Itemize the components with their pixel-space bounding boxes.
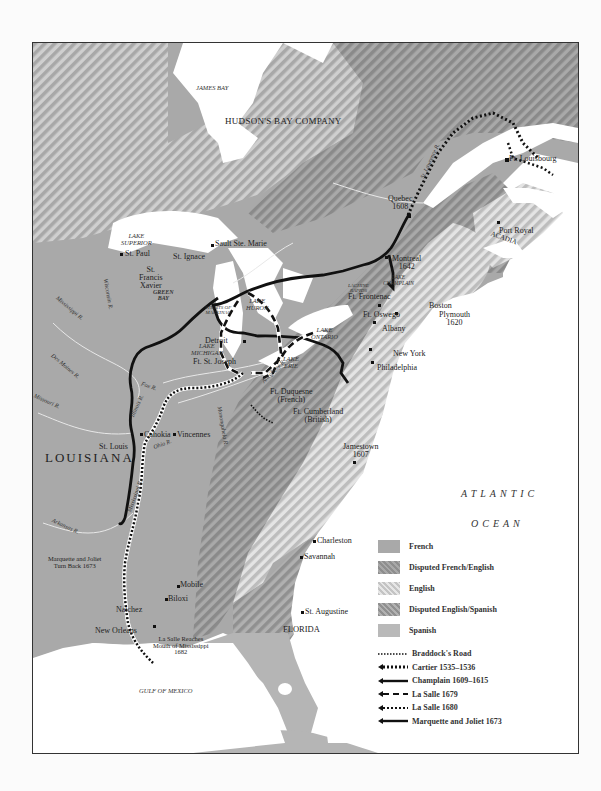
label-green-bay: GREENBAY [153,289,174,301]
label-charleston: Charleston [317,537,352,545]
label-new-orleans: New Orleans [95,627,137,635]
label-louisiana: LOUISIANA [45,451,134,464]
label-cahokia: Cahokia [144,431,171,439]
label-lake-huron: LAKEHURON [246,298,268,311]
legend-item-spanish: Spanish [378,620,548,641]
legend-route-la-salle-1680: La Salle 1680 [378,701,548,715]
label-savannah: Savannah [304,553,335,561]
dashed-arrow-icon [378,691,408,697]
label-atlantic: ATLANTIC [461,489,538,499]
label-vincennes: Vincennes [177,431,210,439]
label-florida: FLORIDA [283,625,320,634]
label-hudsons-bay-company: HUDSON'S BAY COMPANY [225,117,342,126]
label-la-salle-reaches: La Salle ReachesMouth of Mississippi1682 [153,636,209,656]
label-ft-st-joseph: Ft. St. Joseph [193,358,236,366]
legend-route-braddock: Braddock's Road [378,647,548,661]
swatch-disputed-french-english [378,561,400,574]
label-mobile: Mobile [180,581,203,589]
label-philadelphia: Philadelphia [377,364,417,372]
label-st-augustine: St. Augustine [305,608,348,616]
label-detroit: Detroit [205,337,228,345]
legend-item-disputed-french-english: Disputed French/English [378,557,548,578]
label-ft-duquesne: Ft. Duquesne(French) [270,388,313,404]
label-natchez: Natchez [116,606,142,614]
label-ft-louisbourg: Ft. Louisbourg [509,155,556,163]
label-ocean: OCEAN [471,519,524,529]
label-montreal: Montreal1642 [392,255,421,271]
swatch-french [378,540,400,553]
label-straits-of-mackinac: STRAITS OFMACKINAC [205,305,231,315]
legend-item-english: English [378,578,548,599]
beaded-arrow-icon [378,664,408,670]
label-st-francis-xavier: St.FrancisXavier [139,266,163,290]
label-lake-ontario: LAKEONTARIO [311,327,338,340]
label-st-ignace: St. Ignace [173,253,205,261]
legend-item-disputed-english-spanish: Disputed English/Spanish [378,599,548,620]
swatch-spanish [378,624,400,637]
label-plymouth: Plymouth1620 [439,311,470,327]
legend-route-marquette-joliet: Marquette and Joliet 1673 [378,715,548,729]
label-james-bay: JAMES BAY [196,85,228,92]
legend-route-champlain: Champlain 1609–1615 [378,674,548,688]
dotted-line-icon [378,651,408,657]
label-st-paul: St. Paul [125,250,150,258]
label-albany: Albany [382,325,406,333]
label-new-york: New York [393,350,425,358]
swatch-english [378,582,400,595]
swatch-disputed-english-spanish [378,603,400,616]
legend-item-french: French [378,536,548,557]
dotted-arrow-icon [378,705,408,711]
label-st-louis: St. Louis [99,443,128,451]
legend-route-la-salle-1679: La Salle 1679 [378,688,548,702]
label-marquette-turn-back: Marquette and JolietTurn Back 1673 [48,556,101,569]
label-ft-cumberland: Ft. Cumberland(British) [293,408,343,424]
label-sault-ste-marie: Sault Ste. Marie [215,240,267,248]
label-gulf-of-mexico: GULF OF MEXICO [139,688,192,695]
label-port-royal: Port Royal [499,227,533,235]
solid-arrow-icon [378,678,408,684]
map-legend: French Disputed French/English English D… [378,536,548,728]
solid-arrow-icon [378,718,408,724]
label-ft-frontenac: Ft. Frontenac [348,293,391,301]
label-lake-champlain: LAKECHAMPLAIN [383,275,414,286]
legend-route-cartier: Cartier 1535–1536 [378,661,548,675]
label-quebec: Quebec1608 [388,195,412,211]
label-ft-oswego: Ft. Oswego [363,311,400,319]
label-boston: Boston [429,302,452,310]
label-jamestown: Jamestown1607 [343,443,379,459]
label-lake-superior: LAKESUPERIOR [121,233,152,246]
label-biloxi: Biloxi [168,595,188,603]
